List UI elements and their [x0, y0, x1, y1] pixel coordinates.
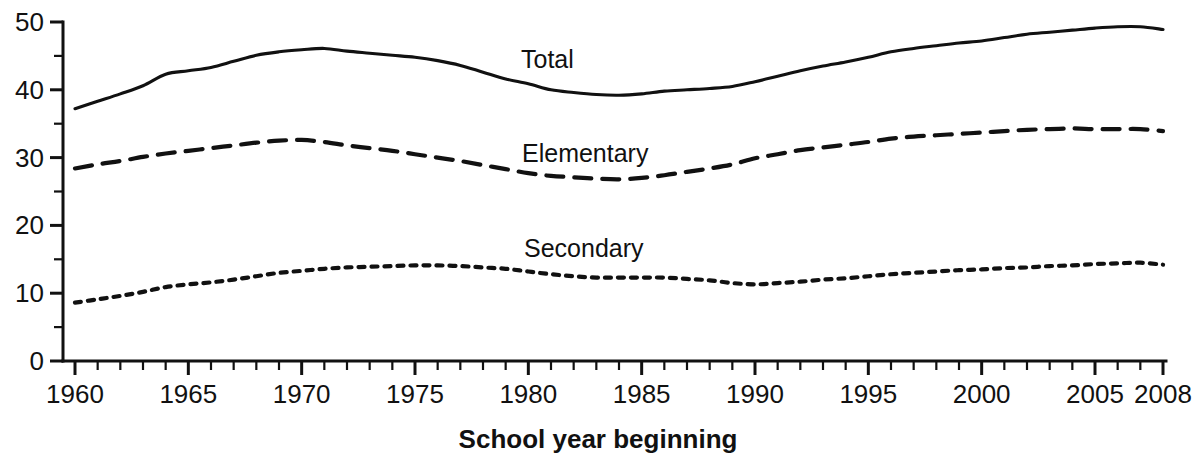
y-tick-label: 0 — [30, 346, 44, 376]
x-tick-label: 1970 — [273, 379, 331, 409]
series-label-elementary: Elementary — [522, 139, 649, 167]
y-tick-label: 20 — [15, 210, 44, 240]
chart-container: 01020304050 1960196519701975198019851990… — [0, 0, 1197, 458]
series-label-total: Total — [521, 45, 574, 73]
y-tick-label: 40 — [15, 75, 44, 105]
x-tick-label: 1960 — [46, 379, 104, 409]
x-tick-label: 2008 — [1134, 379, 1192, 409]
line-chart-svg: 01020304050 1960196519701975198019851990… — [0, 0, 1197, 458]
x-tick-label: 1995 — [839, 379, 897, 409]
x-tick-label: 1975 — [386, 379, 444, 409]
x-tick-label: 2000 — [953, 379, 1011, 409]
x-tick-label: 1980 — [499, 379, 557, 409]
x-tick-label: 1965 — [159, 379, 217, 409]
y-tick-label: 30 — [15, 143, 44, 173]
x-tick-label: 1990 — [726, 379, 784, 409]
series-label-secondary: Secondary — [524, 234, 644, 262]
x-tick-label: 1985 — [613, 379, 671, 409]
x-axis-title: School year beginning — [459, 424, 738, 454]
y-tick-label: 10 — [15, 278, 44, 308]
y-tick-label: 50 — [15, 7, 44, 37]
x-tick-label: 2005 — [1066, 379, 1124, 409]
